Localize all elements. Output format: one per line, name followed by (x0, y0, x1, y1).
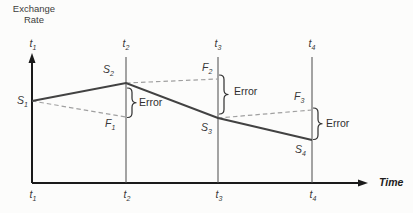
error-brace-3 (314, 108, 323, 140)
diagram-canvas (0, 0, 413, 213)
error-brace-1 (128, 88, 137, 118)
s3-point-label: S3 (201, 122, 212, 133)
t1-bottom-label: t1 (30, 189, 37, 200)
t1-top-label: t1 (30, 38, 37, 49)
spot-rate-line (32, 83, 312, 140)
forecast-line-f1 (32, 101, 126, 117)
s4-point-label: S4 (295, 144, 306, 155)
t2-top-label: t2 (123, 38, 130, 49)
exchange-rate-diagram: Exchange Rate t1 t2 t3 t4 t1 t2 t3 t4 S1… (0, 0, 413, 213)
error-brace-2 (220, 75, 229, 114)
forecast-line-f3 (218, 110, 312, 118)
x-axis-title: Time (379, 177, 403, 188)
error-label-t3: Error (234, 86, 257, 97)
forecast-line-f2 (126, 79, 218, 83)
y-axis-arrow (29, 53, 36, 63)
t4-bottom-label: t4 (310, 189, 317, 200)
y-axis-title-line1: Exchange (6, 4, 62, 15)
y-axis-title: Exchange Rate (6, 4, 62, 25)
y-axis-title-line2: Rate (6, 15, 62, 26)
x-axis-arrow (358, 179, 368, 186)
t3-bottom-label: t3 (216, 189, 223, 200)
error-label-t2: Error (139, 97, 162, 108)
t3-top-label: t3 (215, 38, 222, 49)
s2-point-label: S2 (103, 64, 114, 75)
error-label-t4: Error (326, 118, 349, 129)
t2-bottom-label: t2 (124, 189, 131, 200)
s1-point-label: S1 (17, 95, 28, 106)
f2-point-label: F2 (202, 62, 212, 73)
f3-point-label: F3 (294, 91, 304, 102)
t4-top-label: t4 (309, 38, 316, 49)
f1-point-label: F1 (105, 118, 115, 129)
